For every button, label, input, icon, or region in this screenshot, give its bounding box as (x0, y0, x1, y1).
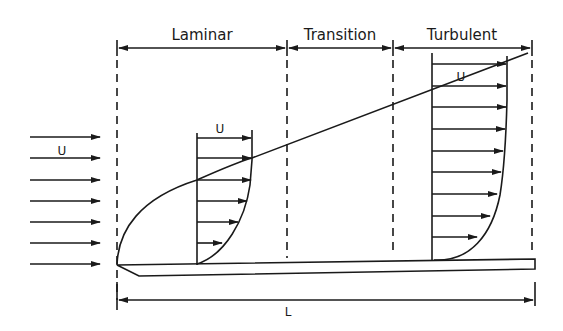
plate-length-label: L (285, 305, 292, 319)
turbulent-profile-curve (434, 100, 507, 260)
boundary-layer-diagram: Laminar Transition Turbulent U U (0, 0, 563, 331)
laminar-profile-velocity-label: U (216, 122, 225, 136)
region-label-turbulent: Turbulent (426, 26, 497, 44)
turbulent-profile-velocity-label: U (457, 70, 466, 84)
flat-plate (117, 259, 535, 276)
region-label-transition: Transition (303, 26, 377, 44)
turbulent-velocity-profile (432, 53, 507, 261)
laminar-velocity-profile (197, 130, 252, 265)
free-stream-velocity-label: U (58, 144, 67, 158)
region-label-laminar: Laminar (171, 26, 233, 44)
plate-length-dimension (117, 282, 535, 310)
boundary-layer-edge-curve (117, 53, 528, 265)
